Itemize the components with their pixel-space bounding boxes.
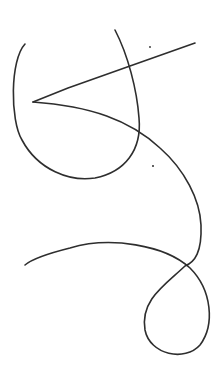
speck-middle <box>152 165 154 167</box>
sketch-canvas <box>0 0 223 376</box>
canvas-background <box>0 0 223 376</box>
speck-top <box>149 46 151 48</box>
